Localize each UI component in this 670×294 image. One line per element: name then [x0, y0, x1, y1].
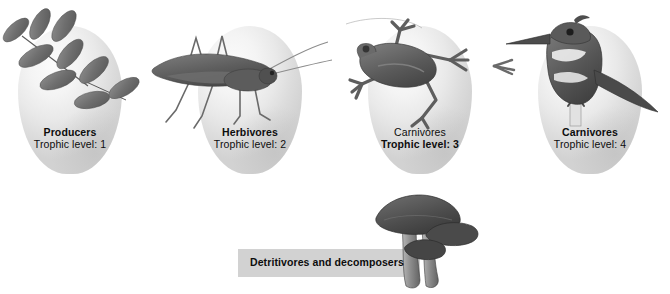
group-level: Trophic level: 1 — [0, 138, 144, 150]
trophic-group-herbivores: Herbivores Trophic level: 2 — [198, 26, 302, 174]
group-name: Herbivores — [176, 126, 324, 138]
trophic-group-producers: Producers Trophic level: 1 — [18, 26, 122, 174]
trophic-levels-figure: Producers Trophic level: 1 — [0, 0, 670, 294]
caption-carnivores-4: Carnivores Trophic level: 4 — [516, 126, 664, 151]
trophic-group-carnivores-3: Carnivores Trophic level: 3 — [368, 26, 472, 174]
group-name: Producers — [0, 126, 144, 138]
oval-background — [538, 26, 642, 174]
oval-background — [368, 26, 472, 174]
detritivores-label: Detritivores and decomposers — [250, 256, 426, 268]
group-level: Trophic level: 4 — [516, 138, 664, 150]
group-level: Trophic level: 3 — [346, 138, 494, 150]
oval-background — [18, 26, 122, 174]
caption-herbivores: Herbivores Trophic level: 2 — [176, 126, 324, 151]
trophic-group-carnivores-4: Carnivores Trophic level: 4 — [538, 26, 642, 174]
oval-background — [198, 26, 302, 174]
caption-producers: Producers Trophic level: 1 — [0, 126, 144, 151]
mushroom-icon — [362, 186, 482, 294]
group-name: Carnivores — [346, 126, 494, 138]
group-level: Trophic level: 2 — [176, 138, 324, 150]
caption-carnivores-3: Carnivores Trophic level: 3 — [346, 126, 494, 151]
group-name: Carnivores — [516, 126, 664, 138]
